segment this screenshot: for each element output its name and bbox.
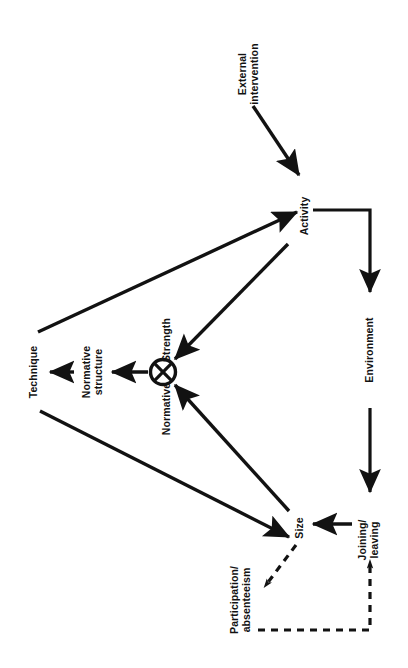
diagram-canvas: External intervention Activity Environme… bbox=[0, 0, 408, 668]
node-label-normative: Normative bbox=[161, 383, 173, 435]
node-label-size: Size bbox=[294, 517, 306, 538]
node-label-environment: Environment bbox=[364, 317, 376, 382]
node-label-activity: Activity bbox=[299, 197, 311, 236]
edge-size-to-junction bbox=[175, 385, 289, 511]
edge-participation-absenteeism-to-joining-leaving bbox=[258, 563, 370, 630]
node-label-external-intervention: External intervention bbox=[237, 43, 260, 104]
edge-external-intervention-to-activity bbox=[253, 106, 299, 175]
node-label-strength: Strength bbox=[161, 318, 173, 362]
edge-size-to-participation-absenteeism bbox=[266, 545, 296, 585]
edge-activity-to-environment-elbow bbox=[313, 210, 370, 292]
diagram-edges bbox=[0, 0, 408, 668]
node-label-participation-absenteeism: Participation/ absenteeism bbox=[229, 566, 252, 634]
node-label-normative-structure: Normative structure bbox=[81, 346, 104, 398]
crossed-circle-junction-icon bbox=[151, 360, 176, 385]
node-label-technique: Technique bbox=[28, 346, 40, 399]
node-label-joining-leaving: Joining/ leaving bbox=[357, 519, 380, 560]
